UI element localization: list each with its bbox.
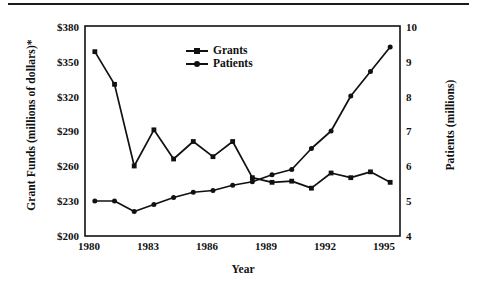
data-point-patients-1987	[230, 183, 235, 188]
data-point-patients-1991	[309, 146, 314, 151]
data-point-patients-1982	[132, 209, 137, 214]
plot-area	[0, 0, 477, 291]
series-path-patients	[95, 47, 390, 212]
data-point-grants-1994	[368, 169, 373, 174]
data-point-grants-1980	[92, 49, 97, 54]
data-point-grants-1984	[171, 157, 176, 162]
series-line-patients	[92, 45, 392, 215]
series-path-grants	[95, 52, 390, 189]
data-point-patients-1993	[348, 94, 353, 99]
chart-figure: Grant Funds (millions of dollars)* Patie…	[0, 0, 477, 291]
plot-frame-border	[85, 26, 400, 236]
data-point-grants-1991	[309, 186, 314, 191]
data-point-grants-1982	[132, 164, 137, 169]
data-point-grants-1981	[112, 82, 117, 87]
data-point-patients-1983	[151, 202, 156, 207]
data-point-patients-1985	[191, 190, 196, 195]
data-point-grants-1990	[289, 179, 294, 184]
data-point-grants-1985	[191, 139, 196, 144]
data-point-grants-1986	[211, 154, 216, 159]
data-point-patients-1988	[250, 179, 255, 184]
data-point-patients-1986	[210, 188, 215, 193]
data-point-grants-1989	[270, 180, 275, 185]
data-point-patients-1984	[171, 195, 176, 200]
data-point-grants-1983	[152, 127, 157, 132]
data-point-patients-1989	[270, 172, 275, 177]
data-point-patients-1990	[289, 167, 294, 172]
data-point-grants-1992	[329, 171, 334, 176]
axis-frame	[85, 26, 400, 236]
data-point-patients-1995	[388, 45, 393, 50]
data-point-patients-1980	[92, 199, 97, 204]
data-point-patients-1994	[368, 69, 373, 74]
data-point-patients-1981	[112, 199, 117, 204]
series-line-grants	[92, 49, 392, 190]
data-point-grants-1993	[348, 175, 353, 180]
data-point-grants-1995	[388, 180, 393, 185]
data-point-grants-1987	[230, 139, 235, 144]
data-point-patients-1992	[329, 129, 334, 134]
